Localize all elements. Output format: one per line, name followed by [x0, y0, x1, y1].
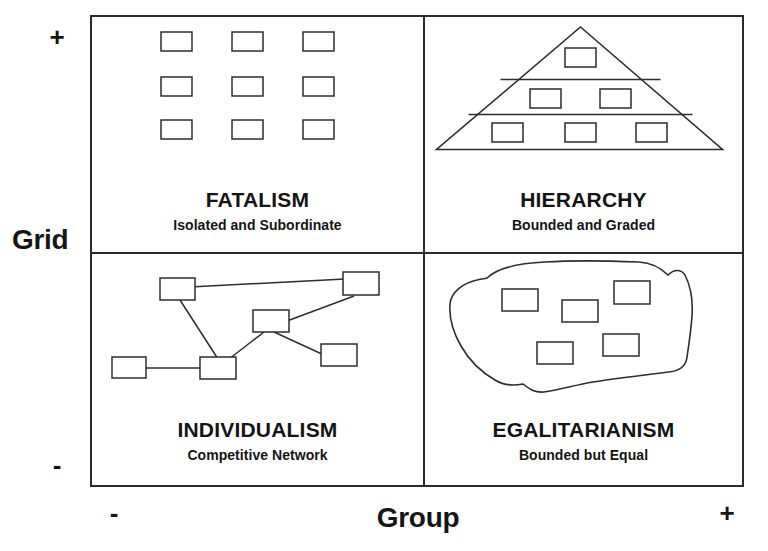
individualism-title: INDIVIDUALISM: [92, 419, 423, 442]
fatalism-caption: FATALISM Isolated and Subordinate: [92, 189, 423, 233]
quadrant-individualism: INDIVIDUALISM Competitive Network: [92, 254, 423, 485]
network-nodes: [112, 272, 379, 379]
fatalism-title: FATALISM: [92, 189, 423, 212]
hierarchy-caption: HIERARCHY Bounded and Graded: [425, 189, 742, 233]
pyramid-member-boxes: [492, 48, 667, 142]
egalitarianism-subtitle: Bounded but Equal: [425, 447, 742, 463]
isolated-box-grid: [161, 32, 334, 139]
quadrant-egalitarianism: EGALITARIANISM Bounded but Equal: [425, 254, 742, 485]
egalitarian-member-boxes: [502, 281, 650, 364]
hierarchy-motif: [425, 17, 742, 177]
egalitarianism-title: EGALITARIANISM: [425, 419, 742, 442]
group-axis-label: Group: [338, 502, 498, 534]
grid-axis-label: Grid: [12, 224, 88, 256]
grid-axis-minus-marker: -: [44, 452, 70, 478]
fatalism-motif: [92, 17, 423, 177]
individualism-motif: [92, 254, 423, 414]
quadrant-fatalism: FATALISM Isolated and Subordinate: [92, 17, 423, 252]
hierarchy-subtitle: Bounded and Graded: [425, 217, 742, 233]
enclosing-boundary-blob: [450, 261, 692, 392]
quadrant-hierarchy: HIERARCHY Bounded and Graded: [425, 17, 742, 252]
hierarchy-title: HIERARCHY: [425, 189, 742, 212]
group-axis-plus-marker: +: [714, 500, 740, 526]
individualism-caption: INDIVIDUALISM Competitive Network: [92, 419, 423, 463]
individualism-subtitle: Competitive Network: [92, 447, 423, 463]
fatalism-subtitle: Isolated and Subordinate: [92, 217, 423, 233]
grid-axis-plus-marker: +: [44, 24, 70, 50]
grid-group-diagram: Grid + - Group - +: [0, 0, 768, 551]
egalitarianism-caption: EGALITARIANISM Bounded but Equal: [425, 419, 742, 463]
egalitarianism-motif: [425, 254, 742, 414]
group-axis-minus-marker: -: [101, 500, 127, 526]
